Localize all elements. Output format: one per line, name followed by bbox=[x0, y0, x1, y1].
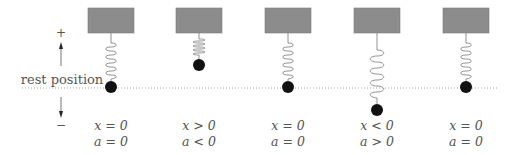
a-condition-3: a = 0 bbox=[271, 134, 305, 149]
x-condition-1: x = 0 bbox=[94, 118, 127, 133]
spring-diagram: rest position + − x = 0 a = bbox=[0, 0, 516, 155]
x-condition-3: x = 0 bbox=[271, 118, 304, 133]
a-condition-5: a = 0 bbox=[449, 134, 483, 149]
ceiling-block bbox=[354, 8, 400, 33]
minus-sign: − bbox=[56, 118, 66, 132]
spring-system-2 bbox=[176, 8, 222, 71]
a-condition-4: a > 0 bbox=[360, 134, 394, 149]
mass-ball bbox=[460, 81, 472, 93]
spring bbox=[106, 33, 117, 82]
x-condition-4: x < 0 bbox=[360, 118, 393, 133]
plus-sign: + bbox=[56, 26, 66, 40]
spring bbox=[193, 33, 205, 60]
mass-ball bbox=[282, 81, 294, 93]
down-arrow-icon bbox=[59, 97, 63, 118]
ceiling-block bbox=[443, 8, 489, 33]
ceiling-block bbox=[265, 8, 311, 33]
mass-ball bbox=[193, 59, 205, 71]
spring-system-3 bbox=[265, 8, 311, 93]
spring bbox=[370, 33, 384, 104]
spring-system-4 bbox=[354, 8, 400, 116]
mass-ball bbox=[105, 81, 117, 93]
spring bbox=[461, 33, 472, 82]
a-condition-1: a = 0 bbox=[94, 134, 128, 149]
ceiling-block bbox=[176, 8, 222, 33]
spring bbox=[283, 33, 294, 82]
x-condition-2: x > 0 bbox=[182, 118, 215, 133]
mass-ball bbox=[371, 104, 383, 116]
spring-system-5 bbox=[443, 8, 489, 93]
ceiling-block bbox=[88, 8, 134, 33]
rest-position-label: rest position bbox=[21, 72, 104, 87]
a-condition-2: a < 0 bbox=[182, 134, 216, 149]
up-arrow-icon bbox=[59, 42, 63, 66]
x-condition-5: x = 0 bbox=[449, 118, 482, 133]
